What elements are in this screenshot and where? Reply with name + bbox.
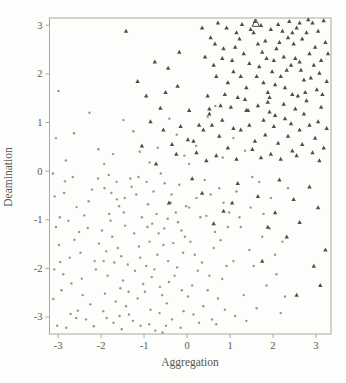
dot-point <box>137 176 139 178</box>
dot-point <box>211 318 213 320</box>
triangle-point <box>269 152 273 156</box>
dot-point <box>265 284 267 286</box>
triangle-point <box>303 90 307 94</box>
triangle-point <box>264 56 268 60</box>
dot-point <box>188 206 190 208</box>
dot-point <box>110 192 112 194</box>
dot-point <box>59 216 61 218</box>
dot-point <box>55 226 57 228</box>
dot-point <box>98 242 100 244</box>
triangle-point <box>201 128 205 132</box>
triangle-point <box>224 25 228 29</box>
x-tick-label: -2 <box>97 340 106 351</box>
dot-point <box>187 295 189 297</box>
dot-point <box>117 247 119 249</box>
y-axis-label: Deamination <box>2 147 14 207</box>
dot-point <box>123 211 125 213</box>
triangle-point <box>200 191 204 195</box>
triangle-point <box>226 146 230 150</box>
dot-point <box>106 274 108 276</box>
dot-point <box>214 231 216 233</box>
triangle-point <box>223 92 227 96</box>
triangle-point <box>214 74 218 78</box>
dot-point <box>215 323 217 325</box>
triangle-point <box>229 105 233 109</box>
x-tick-label: 0 <box>184 340 189 351</box>
dot-point <box>139 150 141 152</box>
triangle-point <box>244 85 248 89</box>
triangle-point <box>310 21 314 25</box>
triangle-point <box>267 95 271 99</box>
triangle-point <box>218 103 222 107</box>
triangle-point <box>197 123 201 127</box>
dot-point <box>206 115 208 117</box>
triangle-point <box>285 68 289 72</box>
triangle-point <box>294 153 298 157</box>
triangle-point <box>214 153 218 157</box>
dot-point <box>156 254 158 256</box>
triangle-point <box>312 63 316 67</box>
triangle-point <box>289 121 293 125</box>
dot-point <box>108 213 110 215</box>
dot-point <box>197 270 199 272</box>
dot-point <box>170 193 172 195</box>
dot-point <box>148 323 150 325</box>
triangle-point <box>300 142 304 146</box>
dot-point <box>91 188 93 190</box>
dot-point <box>118 205 120 207</box>
triangle-point <box>273 82 277 86</box>
dot-point <box>70 282 72 284</box>
dot-point <box>180 229 182 231</box>
dot-point <box>185 205 187 207</box>
dot-point <box>121 328 123 330</box>
triangle-point <box>175 84 179 88</box>
triangle-point <box>283 85 287 89</box>
triangle-point <box>256 103 260 107</box>
dot-point <box>101 229 103 231</box>
triangle-point <box>290 148 294 152</box>
dot-point <box>73 238 75 240</box>
dot-point <box>202 305 204 307</box>
triangle-point <box>269 27 273 31</box>
dot-point <box>127 263 129 265</box>
triangle-point <box>297 220 301 224</box>
dot-point <box>227 226 229 228</box>
dot-point <box>136 297 138 299</box>
dot-point <box>191 284 193 286</box>
dot-point <box>134 270 136 272</box>
triangle-point <box>325 126 329 130</box>
dot-point <box>245 320 247 322</box>
data-points <box>52 17 330 334</box>
dot-point <box>275 273 277 275</box>
triangle-point <box>266 225 270 229</box>
triangle-point <box>153 59 157 63</box>
dot-point <box>173 274 175 276</box>
triangle-point <box>318 283 322 287</box>
dot-point <box>203 179 205 181</box>
triangle-point <box>158 106 162 110</box>
dot-point <box>149 308 151 310</box>
dot-point <box>103 163 105 165</box>
triangle-point <box>273 210 277 214</box>
dot-point <box>87 200 89 202</box>
triangle-point <box>166 66 170 70</box>
triangle-point <box>261 118 265 122</box>
x-tick-label: -3 <box>54 340 63 351</box>
dot-point <box>222 202 224 204</box>
triangle-point <box>234 30 238 34</box>
triangle-point <box>285 234 289 238</box>
y-tick-label: -2 <box>34 263 43 274</box>
triangle-point <box>211 63 215 67</box>
triangle-point <box>286 134 290 138</box>
dot-point <box>141 216 143 218</box>
dot-point <box>161 294 163 296</box>
triangle-point <box>239 128 243 132</box>
dot-point <box>67 220 69 222</box>
dot-point <box>228 211 230 213</box>
dot-point <box>95 268 97 270</box>
triangle-point <box>313 136 317 140</box>
triangle-point <box>208 35 212 39</box>
dot-point <box>162 244 164 246</box>
triangle-point <box>279 157 283 161</box>
triangle-point <box>300 37 304 41</box>
